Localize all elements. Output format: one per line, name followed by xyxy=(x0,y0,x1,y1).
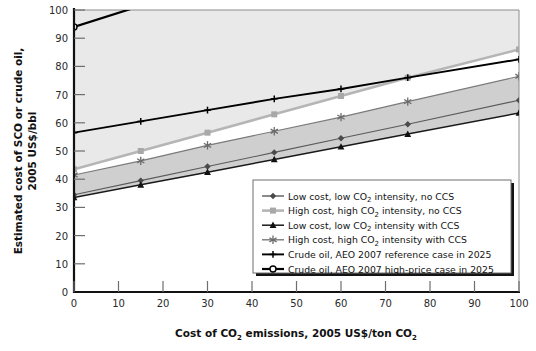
data-point-square xyxy=(338,93,344,99)
y-tick-label: 0 xyxy=(62,287,68,298)
y-tick-label: 50 xyxy=(55,146,68,157)
legend-item-label: Crude oil, AEO 2007 high-price case in 2… xyxy=(288,264,494,275)
data-point-square xyxy=(138,148,144,154)
x-tick-label: 80 xyxy=(424,298,437,309)
cost-of-sco-vs-co2-cost-chart: 0102030405060708090100 01020304050607080… xyxy=(0,0,536,351)
x-tick-label: 20 xyxy=(157,298,170,309)
y-tick-label: 30 xyxy=(55,202,68,213)
legend-item-5[interactable]: Crude oil, AEO 2007 high-price case in 2… xyxy=(262,264,494,275)
y-axis-title-line1: Estimated cost of SCO or crude oil, xyxy=(12,48,24,255)
x-tick-label: 60 xyxy=(335,298,348,309)
legend-item-label: Crude oil, AEO 2007 reference case in 20… xyxy=(288,249,492,260)
x-tick-label: 40 xyxy=(246,298,259,309)
chart-legend[interactable]: Low cost, low CO2 intensity, no CCSHigh … xyxy=(253,180,514,276)
x-tick-label: 90 xyxy=(468,298,481,309)
data-point-square xyxy=(205,130,211,136)
data-point-square xyxy=(270,208,276,214)
x-tick-label: 30 xyxy=(201,298,214,309)
y-tick-label: 90 xyxy=(55,33,68,44)
x-tick-label: 0 xyxy=(71,298,77,309)
x-tick-label: 10 xyxy=(112,298,125,309)
y-tick-label: 100 xyxy=(49,5,68,16)
y-tick-label: 60 xyxy=(55,118,68,129)
x-tick-label: 50 xyxy=(290,298,303,309)
y-tick-label: 40 xyxy=(55,174,68,185)
data-point-square xyxy=(271,111,277,117)
data-point-circle-open xyxy=(270,266,276,272)
chart-container: 0102030405060708090100 01020304050607080… xyxy=(0,0,536,351)
x-tick-label: 100 xyxy=(509,298,528,309)
y-tick-label: 70 xyxy=(55,90,68,101)
legend-item-4[interactable]: Crude oil, AEO 2007 reference case in 20… xyxy=(262,249,492,260)
x-tick-label: 70 xyxy=(379,298,392,309)
y-tick-label: 20 xyxy=(55,231,68,242)
y-tick-label: 80 xyxy=(55,61,68,72)
y-axis-title-line2: 2005 US$/bbl xyxy=(26,112,38,191)
y-tick-label: 10 xyxy=(55,259,68,270)
